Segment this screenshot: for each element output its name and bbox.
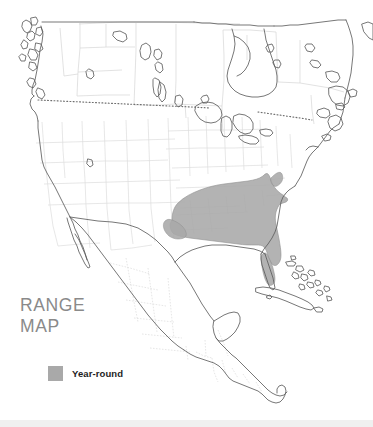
range-map-figure: RANGE MAP Year-round [0,0,373,427]
legend-label-year-round: Year-round [72,368,123,379]
year-round-swatch [48,366,63,381]
map-legend: Year-round [48,366,123,381]
footer-bar [0,420,373,427]
map-canvas [0,0,373,427]
